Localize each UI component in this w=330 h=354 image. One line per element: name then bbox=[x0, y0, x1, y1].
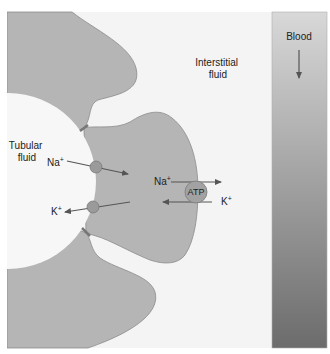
k-channel-apical bbox=[87, 201, 99, 213]
na-channel-apical bbox=[90, 161, 102, 173]
frame-left-mask bbox=[0, 0, 7, 354]
renal-tubule-transport-diagram: Tubular fluid Interstitial fluid Blood N… bbox=[0, 0, 330, 354]
atp-pump-label: ATP bbox=[188, 187, 205, 197]
blood-label: Blood bbox=[286, 31, 312, 42]
